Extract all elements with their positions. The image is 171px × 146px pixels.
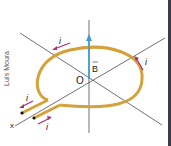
terminal-1 [20,111,23,114]
loop-diagram: O B x i i i i [0,0,171,146]
axis-x-label: x [10,121,14,130]
origin-label: O [76,75,84,86]
photo-credit: Luís Moura [3,51,10,86]
terminal-2 [32,116,35,119]
current-label-lead-bottom: i [46,122,49,132]
arrowhead-icon [52,46,57,50]
current-label-top: i [59,36,62,46]
current-label-right: i [145,57,148,67]
field-label: B [92,64,98,74]
current-label-lead-top: i [26,93,29,103]
page-edge [168,0,171,146]
arrowhead-icon [19,104,24,108]
field-arrowhead-icon [86,34,92,41]
